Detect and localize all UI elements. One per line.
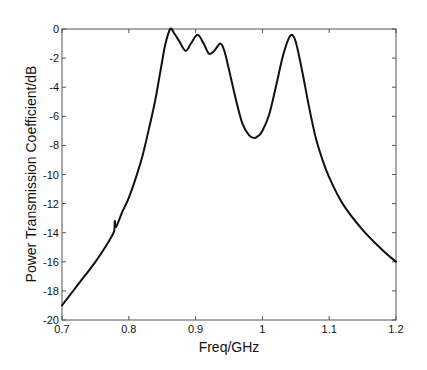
x-tick-label: 0.8: [121, 323, 136, 335]
x-tick-label: 1.1: [322, 323, 337, 335]
chart-canvas: 0.70.80.911.11.2 0-2-4-6-8-10-12-14-16-1…: [0, 0, 427, 370]
y-tick-label: -20: [43, 314, 59, 326]
y-tick-label: -2: [49, 52, 59, 64]
x-tick-label: 1: [259, 323, 265, 335]
x-axis-label: Freq/GHz: [199, 339, 260, 355]
x-tick-label: 1.2: [388, 323, 403, 335]
y-tick-label: -8: [49, 139, 59, 151]
y-tick-label: -18: [43, 285, 59, 297]
y-tick-label: 0: [53, 23, 59, 35]
y-tick-label: -4: [49, 81, 59, 93]
y-tick-label: -12: [43, 198, 59, 210]
y-tick-label: -10: [43, 169, 59, 181]
y-tick-label: -14: [43, 227, 59, 239]
y-tick-label: -6: [49, 110, 59, 122]
y-axis-label: Power Transmission Coefficient/dB: [23, 66, 39, 283]
y-tick-label: -16: [43, 256, 59, 268]
x-tick-label: 0.9: [188, 323, 203, 335]
